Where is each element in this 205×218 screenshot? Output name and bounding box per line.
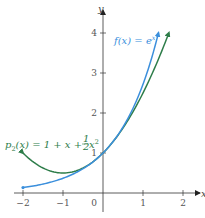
y-tick-label: 4 [91, 28, 97, 38]
x-axis-label: x [201, 188, 205, 199]
x-tick-label: 1 [140, 198, 146, 208]
svg-text:x2: x2 [89, 138, 99, 150]
exponential-start-point [21, 186, 24, 189]
x-tick-label: 2 [180, 198, 186, 208]
y-tick-label: 2 [91, 108, 97, 118]
taylor-polynomial-label: p2(x) = 1 + x + [5, 139, 82, 153]
x-tick-label: −2 [16, 198, 29, 208]
y-axis-label: y [97, 3, 104, 14]
function-plot: −2−10121234 x y f(x) = ex p2(x) = 1 + x … [0, 0, 205, 218]
y-tick-label: 3 [91, 68, 97, 78]
x-tick-label: 0 [91, 198, 97, 208]
exponential-label: f(x) = ex [113, 34, 156, 46]
x-tick-label: −1 [56, 198, 69, 208]
